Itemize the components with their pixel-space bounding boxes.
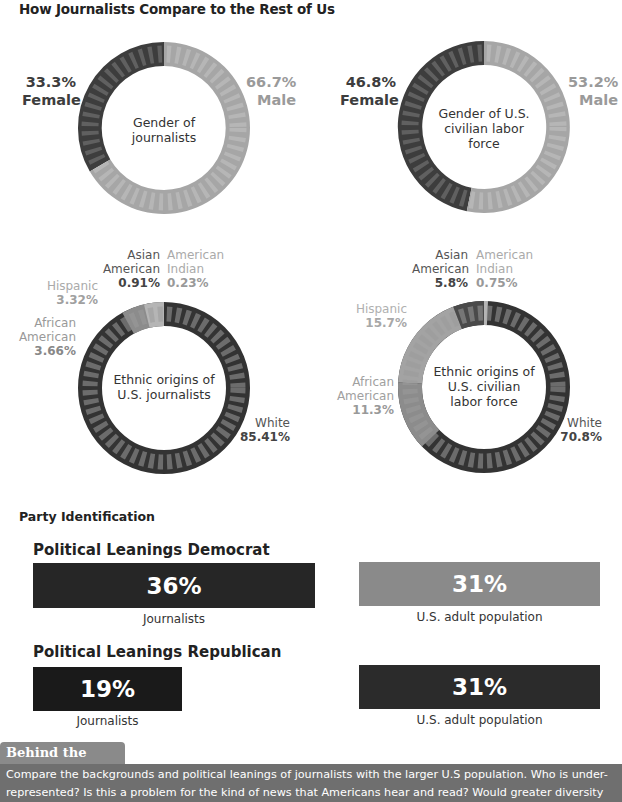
label-line: White: [558, 416, 602, 430]
bar-value: 36%: [146, 573, 201, 599]
hispanic-journalists-label: Hispanic 3.32%: [30, 279, 98, 307]
indian-pct: 0.23%: [167, 276, 209, 290]
asian-labor-label: Asian American 5.8%: [412, 248, 468, 290]
democrat-heading: Political Leanings Democrat: [33, 541, 270, 559]
asian-journalists-label: Asian American 0.91%: [100, 248, 160, 290]
label-line: White: [236, 416, 290, 430]
center-label-line: Ethnic origins of: [424, 364, 544, 379]
hispanic-labor-label: Hispanic 15.7%: [355, 302, 407, 330]
bar-value: 31%: [452, 571, 507, 597]
label-line: African: [330, 375, 394, 389]
ethnic-journalists-center-label: Ethnic origins of U.S. journalists: [104, 372, 224, 402]
label-line: African: [10, 316, 76, 330]
bar-value: 19%: [80, 676, 135, 702]
ethnic-labor-center-label: Ethnic origins of U.S. civilian labor fo…: [424, 364, 544, 409]
center-label-line: labor force: [424, 394, 544, 409]
bar-value: 31%: [452, 674, 507, 700]
label-line: Indian: [476, 262, 546, 276]
label-line: American: [330, 389, 394, 403]
banner-line: Compare the backgrounds and political le…: [6, 766, 622, 784]
female-labor-label: 46.8% Female: [340, 73, 396, 109]
african-pct: 3.66%: [34, 344, 76, 358]
white-labor-label: White 70.8%: [558, 416, 602, 444]
label-line: Indian: [167, 262, 237, 276]
label-line: American: [167, 248, 237, 262]
male-text: Male: [568, 91, 618, 109]
center-label-line: force: [424, 136, 544, 151]
female-text: Female: [22, 91, 76, 109]
african-journalists-label: African American 3.66%: [10, 316, 76, 358]
gender-journalists-center-label: Gender of journalists: [114, 115, 214, 145]
label-line: American: [10, 330, 76, 344]
republican-population-bar: 31%: [359, 665, 600, 709]
label-line: American: [412, 262, 468, 276]
democrat-population-bar: 31%: [359, 562, 600, 606]
hispanic-pct: 3.32%: [56, 293, 98, 307]
republican-population-caption: U.S. adult population: [359, 713, 600, 727]
white-journalists-label: White 85.41%: [236, 416, 290, 444]
center-label-line: U.S. journalists: [104, 387, 224, 402]
male-labor-label: 53.2% Male: [568, 73, 618, 109]
banner-line: represented? Is this a problem for the k…: [6, 784, 622, 802]
asian-pct: 5.8%: [435, 276, 468, 290]
indian-labor-label: American Indian 0.75%: [476, 248, 546, 290]
male-journalists-label: 66.7% Male: [246, 73, 296, 109]
democrat-journalists-bar: 36%: [33, 563, 315, 608]
label-line: American: [476, 248, 546, 262]
party-identification-heading: Party Identification: [19, 509, 155, 524]
indian-journalists-label: American Indian 0.23%: [167, 248, 237, 290]
white-pct: 70.8%: [560, 430, 602, 444]
label-line: American: [100, 262, 160, 276]
center-label-line: journalists: [114, 130, 214, 145]
republican-heading: Political Leanings Republican: [33, 643, 281, 661]
center-label-line: Gender of U.S.: [424, 106, 544, 121]
african-labor-label: African American 11.3%: [330, 375, 394, 417]
label-line: Asian: [100, 248, 160, 262]
male-pct: 53.2%: [568, 73, 618, 91]
african-pct: 11.3%: [352, 403, 394, 417]
center-label-line: Gender of: [114, 115, 214, 130]
female-pct: 33.3%: [22, 73, 76, 91]
center-label-line: Ethnic origins of: [104, 372, 224, 387]
behind-the-numbers-tab: Behind the Numbers: [0, 742, 125, 764]
male-text: Male: [246, 91, 296, 109]
democrat-population-caption: U.S. adult population: [359, 610, 600, 624]
page-title: How Journalists Compare to the Rest of U…: [19, 1, 335, 17]
female-journalists-label: 33.3% Female: [22, 73, 76, 109]
white-pct: 85.41%: [240, 430, 290, 444]
label-line: Hispanic: [30, 279, 98, 293]
indian-pct: 0.75%: [476, 276, 518, 290]
republican-journalists-caption: Journalists: [33, 714, 182, 728]
label-line: Asian: [412, 248, 468, 262]
center-label-line: U.S. civilian: [424, 379, 544, 394]
male-pct: 66.7%: [246, 73, 296, 91]
gender-labor-center-label: Gender of U.S. civilian labor force: [424, 106, 544, 151]
asian-pct: 0.91%: [118, 276, 160, 290]
behind-the-numbers-text: Compare the backgrounds and political le…: [0, 764, 622, 802]
label-line: Hispanic: [355, 302, 407, 316]
center-label-line: civilian labor: [424, 121, 544, 136]
republican-journalists-bar: 19%: [33, 667, 182, 711]
female-text: Female: [340, 91, 396, 109]
democrat-journalists-caption: Journalists: [33, 612, 315, 626]
female-pct: 46.8%: [340, 73, 396, 91]
hispanic-pct: 15.7%: [365, 316, 407, 330]
